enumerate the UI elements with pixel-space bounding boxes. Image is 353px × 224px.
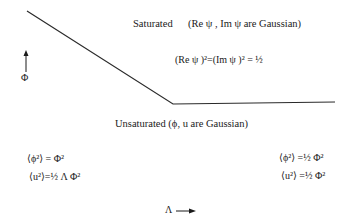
unsaturated-left-eq1: ⟨ϕ²⟩ = Φ² — [27, 153, 64, 164]
right-arrow-icon — [176, 207, 196, 215]
saturated-label: Saturated — [133, 18, 173, 29]
saturated-equation: (Re ψ )²=(Im ψ )² = ½ — [175, 54, 263, 65]
x-axis-label: Λ — [165, 204, 172, 215]
unsaturated-right-eq2: ⟨u²⟩ =½ Φ² — [281, 170, 325, 181]
unsaturated-right-eq1: ⟨ϕ²⟩ =½ Φ² — [279, 152, 324, 163]
unsaturated-heading: Unsaturated (ϕ, u are Gaussian) — [115, 118, 248, 129]
boundary-line — [0, 0, 353, 224]
up-arrow-icon — [22, 50, 30, 72]
y-axis-label: Φ — [21, 72, 28, 83]
unsaturated-left-eq2: ⟨u²⟩=½ Λ Φ² — [29, 171, 80, 182]
saturated-condition: (Re ψ , Im ψ are Gaussian) — [188, 18, 301, 29]
saturated-heading: Saturated (Re ψ , Im ψ are Gaussian) — [133, 18, 301, 29]
